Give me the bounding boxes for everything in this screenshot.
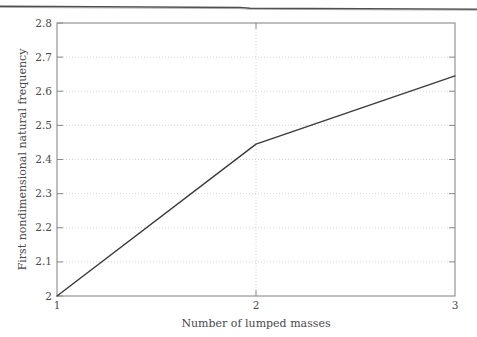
- y-tick-label: 2.7: [35, 51, 52, 63]
- x-tick-labels: 1 2 3: [54, 299, 459, 311]
- y-axis-title: First nondimensional natural frequency: [16, 48, 29, 270]
- x-axis-title: Number of lumped masses: [181, 317, 331, 330]
- y-tick-label: 2.5: [35, 119, 52, 131]
- line-chart: 2 2.1 2.2 2.3 2.4 2.5 2.6 2.7 2.8 1 2 3 …: [0, 0, 477, 337]
- x-tick-label: 1: [54, 299, 61, 311]
- y-tick-label: 2.3: [35, 187, 52, 199]
- y-tick-labels: 2 2.1 2.2 2.3 2.4 2.5 2.6 2.7 2.8: [35, 17, 52, 302]
- horizontal-gridlines: [57, 57, 455, 262]
- y-tick-label: 2.2: [35, 221, 52, 233]
- x-tick-label: 3: [452, 299, 459, 311]
- y-tick-label: 2.4: [35, 153, 52, 165]
- y-tick-label: 2.1: [35, 255, 52, 267]
- y-tick-label: 2: [45, 290, 52, 302]
- chart-figure: 2 2.1 2.2 2.3 2.4 2.5 2.6 2.7 2.8 1 2 3 …: [0, 0, 477, 337]
- y-tick-label: 2.6: [35, 85, 52, 97]
- x-tick-label: 2: [253, 299, 260, 311]
- y-tick-label: 2.8: [35, 17, 52, 29]
